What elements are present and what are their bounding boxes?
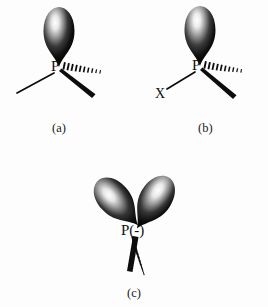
atom-label-p-anion-c: P(-): [121, 222, 144, 239]
caption-c: (c): [127, 286, 141, 300]
plain-bond-left-b: [167, 72, 195, 89]
orbital-structures-svg: P (a): [0, 0, 268, 307]
hash-bond-right-b: [203, 61, 242, 73]
panel-b: P X (b): [155, 6, 242, 135]
chemistry-figure: P (a): [0, 0, 268, 307]
wedge-bond-right-b: [200, 68, 237, 99]
wedge-bond-right-a: [59, 69, 96, 98]
caption-a: (a): [52, 121, 66, 135]
substituent-label-x: X: [155, 86, 165, 101]
panel-a: P (a): [17, 7, 101, 135]
atom-label-p-b: P: [192, 57, 200, 73]
caption-b: (b): [198, 121, 213, 135]
atom-label-p-a: P: [51, 58, 59, 74]
panel-c: P(-) (c): [86, 169, 183, 300]
plain-bond-left-a: [17, 73, 54, 93]
hash-bond-right-a: [62, 62, 101, 74]
